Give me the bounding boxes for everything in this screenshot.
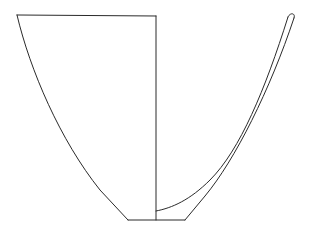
- exterior-outline-curve: [17, 15, 128, 220]
- rim-line: [17, 15, 156, 16]
- section-inner-wall: [156, 17, 288, 211]
- bowl-profile-drawing: [0, 0, 312, 236]
- section-rim-tip: [288, 14, 294, 18]
